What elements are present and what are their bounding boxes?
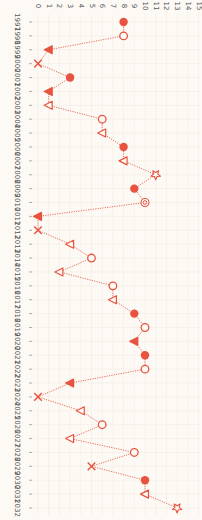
value-tick-label: 9 [130, 4, 138, 8]
value-tick-label: 13 [173, 2, 181, 11]
value-tick-label: 4 [77, 4, 85, 9]
data-point-circle-filled [141, 476, 149, 484]
series-line [38, 22, 177, 508]
data-point-circle-open [141, 365, 149, 373]
data-point-star [172, 504, 182, 513]
data-point-circle-filled [119, 143, 127, 151]
data-point-triangle-open [66, 240, 74, 248]
data-point-circle-filled [130, 309, 138, 317]
chart-canvas: 0123456789101112131415199719981999200020… [0, 0, 202, 520]
data-point-triangle-open [44, 101, 52, 109]
value-tick-label: 0 [34, 4, 42, 8]
value-tick-label: 5 [88, 4, 96, 8]
data-point-circle-open [88, 254, 96, 262]
data-point-triangle-open [76, 407, 84, 415]
data-point-circle-open [98, 115, 106, 123]
year-axis-ticks: 1997199819992000200120022003200420052006… [13, 13, 32, 517]
data-point-circle-open [141, 324, 149, 332]
value-tick-label: 15 [195, 2, 202, 11]
value-tick-label: 11 [152, 2, 160, 11]
value-axis-ticks: 0123456789101112131415 [34, 2, 202, 11]
data-point-circle-open [131, 449, 139, 457]
value-tick-label: 14 [184, 2, 192, 11]
value-tick-label: 8 [120, 4, 128, 8]
line-chart: 0123456789101112131415199719981999200020… [0, 0, 202, 520]
data-point-triangle-filled [34, 212, 42, 220]
data-point-circle-filled [141, 351, 149, 359]
value-tick-label: 1 [45, 4, 53, 8]
data-point-triangle-filled [44, 46, 52, 54]
data-point-circle-open [120, 32, 128, 40]
data-point-triangle-filled [66, 379, 74, 387]
data-point-star [151, 171, 161, 180]
value-tick-label: 7 [109, 4, 117, 8]
data-point-circle-filled [119, 18, 127, 26]
data-point-circle-open [98, 421, 106, 429]
data-point-triangle-open [108, 296, 116, 304]
data-point-triangle-filled [130, 337, 138, 345]
data-point-circle-filled [66, 73, 74, 81]
data-point-circle-open [109, 282, 117, 290]
data-point-double-circle [141, 199, 149, 207]
grid [34, 14, 200, 515]
data-point-circle-filled [130, 184, 138, 192]
year-tick-label: 2032 [13, 499, 21, 517]
value-tick-label: 3 [66, 4, 74, 8]
data-point-triangle-open [119, 157, 127, 165]
value-tick-label: 2 [55, 4, 63, 8]
data-point-triangle-open [66, 435, 74, 443]
data-point-triangle-open [55, 268, 63, 276]
value-tick-label: 10 [141, 2, 149, 11]
value-tick-label: 6 [98, 4, 106, 9]
value-tick-label: 12 [162, 2, 170, 11]
